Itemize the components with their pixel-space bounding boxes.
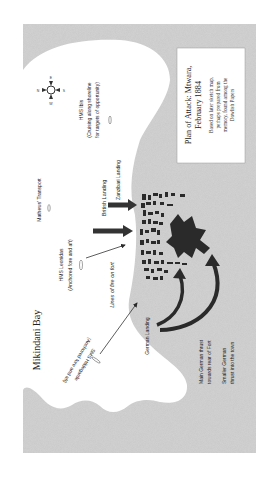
svg-text:Smaller German: Smaller German	[221, 347, 227, 384]
british-landing-label: British Landing	[101, 180, 107, 216]
svg-text:Main German thrust: Main German thrust	[198, 339, 204, 384]
map-title-line2: February 1884	[194, 81, 203, 129]
german-landing-label: German Landing	[144, 317, 150, 354]
map-note-line3: memory, found among the	[222, 77, 228, 132]
svg-text:HMS Ibis: HMS Ibis	[78, 99, 84, 120]
svg-text:(Anchored fore and aft): (Anchored fore and aft)	[67, 239, 73, 291]
mikindani-bay-label: Mikindani Bay	[31, 310, 42, 370]
svg-text:towards rear of Fort: towards rear of Fort	[206, 340, 212, 384]
attack-plan-map: Plan of Attack: Mtwara, February 1884 Ba…	[0, 0, 270, 494]
svg-text:thrust into the town: thrust into the town	[229, 342, 235, 384]
zanzibari-landing-label: Zanzibari Landing	[115, 160, 121, 200]
map-title-line1: Plan of Attack: Mtwara,	[184, 66, 193, 145]
map-note-line4: Dowlish Papers	[229, 89, 235, 122]
svg-text:HMS Leonidas: HMS Leonidas	[58, 248, 64, 281]
mathews-transport-label: Mathews' Transport	[36, 178, 42, 222]
lines-of-fire-label: Lines of fire on fort	[109, 262, 115, 308]
svg-text:(Cruising along shoreline: (Cruising along shoreline	[86, 82, 92, 138]
svg-text:for targets of opportunity): for targets of opportunity)	[94, 82, 100, 138]
map-title-box: Plan of Attack: Mtwara, February 1884 Ba…	[177, 48, 245, 163]
map-note-line2: perhaps prepared from	[215, 82, 221, 129]
map-note-line1: Based on later sketch map,	[208, 77, 214, 133]
